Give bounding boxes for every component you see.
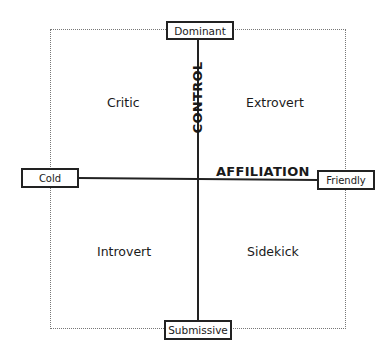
dominant-pole-box: Dominant — [166, 21, 234, 40]
control-axis-label: CONTROL — [190, 58, 205, 138]
quadrant-extrovert: Extrovert — [246, 95, 304, 110]
submissive-label: Submissive — [168, 324, 228, 336]
submissive-pole-box: Submissive — [164, 320, 232, 340]
quadrant-introvert: Introvert — [97, 244, 151, 259]
affiliation-axis-label: AFFILIATION — [216, 164, 310, 179]
cold-label: Cold — [39, 173, 61, 184]
dominant-label: Dominant — [174, 25, 226, 37]
quadrant-critic: Critic — [107, 95, 140, 110]
quadrant-sidekick: Sidekick — [247, 244, 299, 259]
friendly-pole-box: Friendly — [317, 170, 375, 190]
cold-pole-box: Cold — [21, 168, 79, 188]
friendly-label: Friendly — [326, 175, 365, 186]
